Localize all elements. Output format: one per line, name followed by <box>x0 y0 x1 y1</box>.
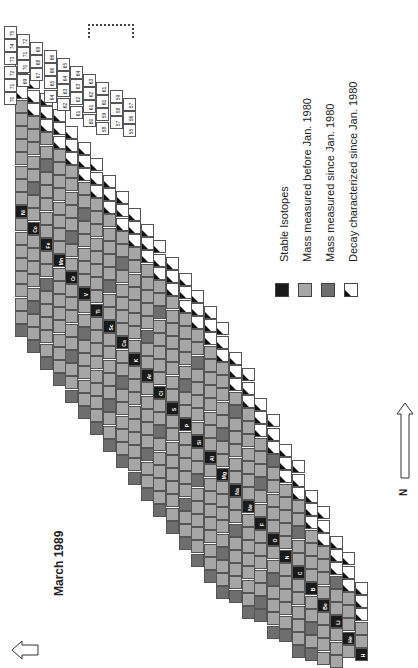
nuclide-cell <box>128 432 141 445</box>
mass-number: 61 <box>84 101 97 114</box>
nuclide-cell <box>305 569 318 582</box>
nuclide-cell <box>216 586 229 599</box>
nuclide-cell <box>242 514 255 527</box>
nuclide-cell <box>254 451 267 464</box>
dotted-boundary <box>88 24 134 38</box>
mass-number-cell: 57 <box>110 116 123 129</box>
nuclide-cell <box>229 444 242 457</box>
nuclide-cell <box>279 470 292 483</box>
nuclide-cell <box>141 343 154 356</box>
nuclide-cell <box>179 286 192 299</box>
nuclide-cell <box>179 484 192 497</box>
nuclide-cell <box>27 90 40 103</box>
mass-number: 60 <box>84 115 97 128</box>
nuclide-cell <box>78 353 91 366</box>
nuclide-cell <box>15 311 28 324</box>
mass-number: 62 <box>84 88 97 101</box>
nuclide-cell <box>179 498 192 511</box>
mass-number-cell: 75 <box>4 26 17 39</box>
nuclide-cell <box>254 411 267 424</box>
nuclide-cell <box>330 602 343 615</box>
nuclide-cell <box>15 232 28 245</box>
nuclide-cell <box>65 192 78 205</box>
nuclide-cell <box>78 221 91 234</box>
nuclide-cell <box>242 566 255 579</box>
nuclide-cell <box>179 445 192 458</box>
nuclide-cell <box>116 284 129 297</box>
mass-number-cell: 68 <box>30 55 43 68</box>
nuclide-cell <box>166 349 179 362</box>
nuclide-cell <box>15 113 28 126</box>
nuclide-cell <box>204 570 217 583</box>
nuclide-cell <box>216 402 229 415</box>
nuclide-cell <box>27 261 40 274</box>
nuclide-cell <box>78 208 91 221</box>
nuclide-cell <box>216 362 229 375</box>
mass-number-cell: 62 <box>70 92 83 105</box>
nuclide-cell <box>141 488 154 501</box>
nuclide-cell <box>103 188 116 201</box>
nuclide-cell <box>216 375 229 388</box>
nuclide-cell <box>78 182 91 195</box>
nuclide-cell <box>242 395 255 408</box>
nuclide-cell <box>90 224 103 237</box>
mass-number-cell: 66 <box>44 63 57 76</box>
nuclide-cell <box>27 288 40 301</box>
nuclide-cell <box>40 198 53 211</box>
nuclide-cell <box>179 300 192 313</box>
nuclide-cell <box>191 395 204 408</box>
nuclide-cell <box>65 126 78 139</box>
nuclide-cell <box>153 425 166 438</box>
nuclide-cell <box>65 337 78 350</box>
nuclide-cell <box>229 510 242 523</box>
mass-number-cell: 62 <box>57 98 70 111</box>
element-symbol: Co <box>28 223 41 236</box>
nuclide-cell <box>166 494 179 507</box>
nuclide-cell <box>90 343 103 356</box>
nuclide-cell <box>53 162 66 175</box>
nuclide-cell <box>330 562 343 575</box>
nuclide-cell <box>153 320 166 333</box>
nuclide-cell <box>116 389 129 402</box>
nuclide-cell <box>141 316 154 329</box>
nuclide-cell <box>153 438 166 451</box>
nuclide-cell <box>267 546 280 559</box>
nuclide-cell <box>116 376 129 389</box>
mass-number: 73 <box>5 53 18 66</box>
mass-number-cell: 61 <box>96 82 109 95</box>
nuclide-cell <box>292 592 305 605</box>
nuclide-cell <box>128 379 141 392</box>
nuclide-cell <box>116 402 129 415</box>
nuclide-cell <box>191 488 204 501</box>
nuclide-cell <box>40 330 53 343</box>
mass-number-cell: 71 <box>17 47 30 60</box>
mass-number: 55 <box>124 125 137 138</box>
nuclide-cell <box>229 563 242 576</box>
nuclide-cell <box>292 540 305 553</box>
nuclide-cell <box>40 106 53 119</box>
nuclide-cell: Al <box>204 451 217 464</box>
nuclide-cell <box>254 438 267 451</box>
nuclide-cell <box>267 520 280 533</box>
mass-number: 58 <box>97 123 110 136</box>
nuclide-cell <box>229 392 242 405</box>
nuclide-cell <box>191 356 204 369</box>
nuclide-cell <box>103 175 116 188</box>
nuclide-cell <box>153 293 166 306</box>
nuclide-cell <box>204 412 217 425</box>
nuclide-cell <box>191 554 204 567</box>
nuclide-cell <box>166 296 179 309</box>
nuclide-cell <box>15 324 28 337</box>
mass-number-cell: 65 <box>44 76 57 89</box>
nuclide-cell <box>90 158 103 171</box>
element-symbol: Ar <box>142 370 155 383</box>
nuclide-cell <box>141 290 154 303</box>
nuclide-cell <box>128 260 141 273</box>
nuclide-cell <box>305 556 318 569</box>
nuclide-cell <box>53 175 66 188</box>
legend-swatch-before <box>298 283 312 297</box>
nuclide-cell <box>128 445 141 458</box>
nuclide-cell <box>179 352 192 365</box>
nuclide-cell <box>279 510 292 523</box>
nuclide-cell <box>166 257 179 270</box>
